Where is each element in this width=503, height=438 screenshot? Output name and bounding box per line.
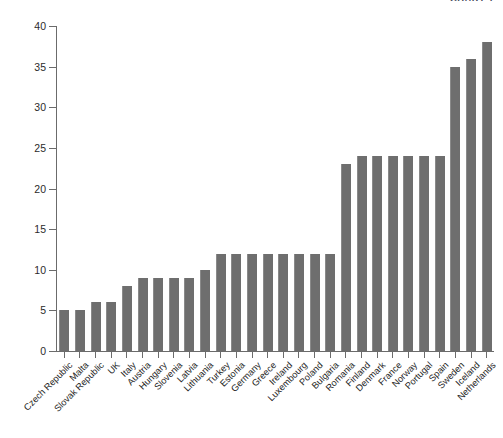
x-tick-mark: [408, 352, 409, 358]
bar: [91, 302, 101, 351]
x-tick-mark: [345, 352, 346, 358]
bar: [263, 254, 273, 352]
x-tick-mark: [298, 352, 299, 358]
y-tick-mark: [49, 26, 56, 27]
bar: [403, 156, 413, 351]
y-tick-mark: [49, 310, 56, 311]
y-tick-label: 10: [34, 264, 46, 276]
bar: [138, 278, 148, 351]
y-tick-label: 40: [34, 20, 46, 32]
bar: [278, 254, 288, 352]
bar: [106, 302, 116, 351]
x-tick-mark: [236, 352, 237, 358]
bar: [59, 310, 69, 351]
x-tick-mark: [439, 352, 440, 358]
bar: [419, 156, 429, 351]
x-tick-mark: [392, 352, 393, 358]
x-tick-mark: [361, 352, 362, 358]
y-tick-label: 25: [34, 142, 46, 154]
x-tick-mark: [486, 352, 487, 358]
x-axis-line: [56, 351, 494, 352]
bar: [482, 42, 492, 351]
bar: [231, 254, 241, 352]
x-tick-mark: [126, 352, 127, 358]
x-tick-mark: [314, 352, 315, 358]
x-tick-mark: [158, 352, 159, 358]
x-tick-mark: [142, 352, 143, 358]
x-tick-mark: [189, 352, 190, 358]
y-tick-mark: [49, 351, 56, 352]
bar: [388, 156, 398, 351]
y-tick-mark: [49, 67, 56, 68]
bar: [466, 59, 476, 352]
bar: [435, 156, 445, 351]
bar: [184, 278, 194, 351]
bar-chart: CHART 1 0510152025303540 Czech RepublicM…: [0, 0, 503, 438]
bar: [450, 67, 460, 351]
y-tick-mark: [49, 107, 56, 108]
bar: [216, 254, 226, 352]
bar: [325, 254, 335, 352]
x-tick-mark: [252, 352, 253, 358]
x-tick-mark: [424, 352, 425, 358]
y-tick-label: 0: [40, 345, 46, 357]
chart-header-caption: CHART 1: [450, 0, 494, 1]
x-axis-label: UK: [106, 360, 122, 376]
x-tick-mark: [205, 352, 206, 358]
y-tick-label: 35: [34, 61, 46, 73]
x-tick-mark: [267, 352, 268, 358]
y-tick-label: 30: [34, 101, 46, 113]
y-tick-label: 5: [40, 304, 46, 316]
bar: [122, 286, 132, 351]
x-tick-mark: [64, 352, 65, 358]
bar: [372, 156, 382, 351]
y-tick-label: 20: [34, 183, 46, 195]
x-tick-mark: [377, 352, 378, 358]
x-tick-mark: [79, 352, 80, 358]
y-tick-mark: [49, 148, 56, 149]
y-tick-mark: [49, 229, 56, 230]
x-tick-mark: [471, 352, 472, 358]
bar: [294, 254, 304, 352]
bar: [357, 156, 367, 351]
bar: [153, 278, 163, 351]
y-tick-mark: [49, 189, 56, 190]
plot-area: 0510152025303540: [56, 26, 494, 351]
x-tick-mark: [173, 352, 174, 358]
x-tick-mark: [330, 352, 331, 358]
x-tick-mark: [283, 352, 284, 358]
x-tick-mark: [455, 352, 456, 358]
y-tick-mark: [49, 270, 56, 271]
x-tick-mark: [95, 352, 96, 358]
x-tick-mark: [111, 352, 112, 358]
y-tick-label: 15: [34, 223, 46, 235]
x-tick-mark: [220, 352, 221, 358]
bar: [341, 164, 351, 351]
bar: [200, 270, 210, 351]
bar: [75, 310, 85, 351]
bar: [169, 278, 179, 351]
bar: [247, 254, 257, 352]
bar: [310, 254, 320, 352]
